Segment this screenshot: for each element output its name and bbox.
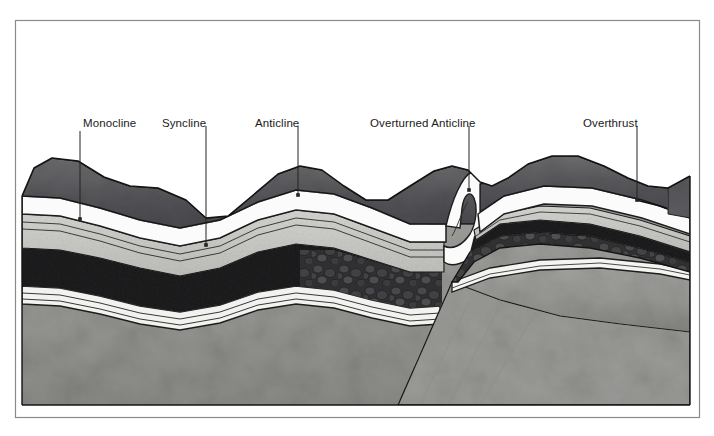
- label-overthrust: Overthrust: [583, 118, 638, 130]
- leader-dot-monocline: [78, 217, 82, 221]
- leader-dot-anticline: [296, 193, 300, 197]
- footwall-package: [22, 158, 492, 330]
- label-monocline: Monocline: [83, 118, 136, 130]
- label-anticline: Anticline: [255, 118, 299, 130]
- figure-container: Monocline Syncline Anticline Overturned …: [0, 0, 714, 436]
- label-syncline: Syncline: [162, 118, 206, 130]
- label-overturned-anticline: Overturned Anticline: [370, 118, 476, 130]
- leader-dot-overthrust: [635, 198, 639, 202]
- leader-dot-overturned-anticline: [467, 188, 471, 192]
- block-body: [0, 150, 714, 420]
- block-diagram: [0, 0, 714, 436]
- leader-dot-syncline: [204, 243, 208, 247]
